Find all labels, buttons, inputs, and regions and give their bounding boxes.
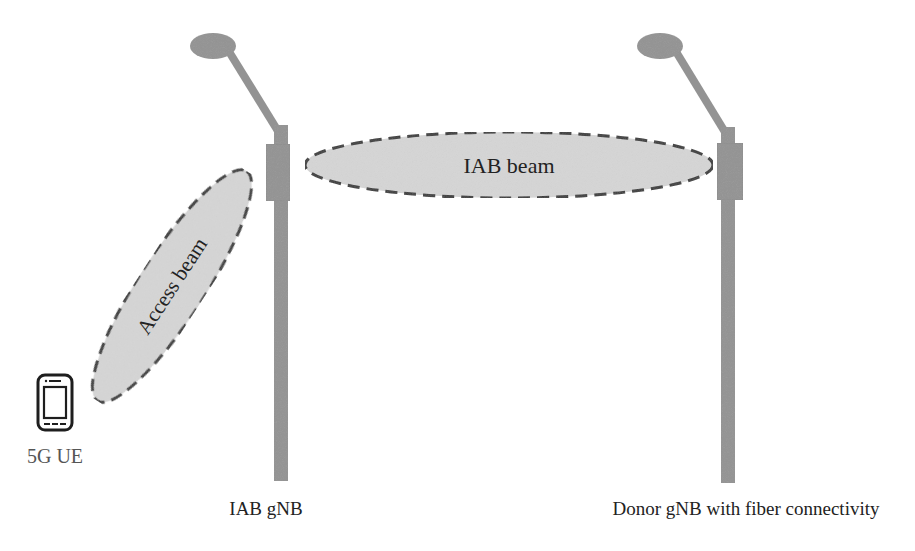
lamp-arm	[228, 50, 281, 136]
smartphone-icon	[38, 375, 72, 430]
ue-label: 5G UE	[27, 445, 83, 467]
iab-network-diagram: IAB beam Access beam 5G UE IAB gNB Donor…	[0, 0, 915, 551]
lamp-arm	[675, 50, 728, 137]
lamp-head	[637, 33, 683, 59]
gnb-unit-box	[266, 144, 290, 201]
iab-gnb-label: IAB gNB	[229, 498, 302, 519]
gnb-unit-box	[717, 143, 743, 200]
access-beam: Access beam	[70, 153, 275, 419]
donor-gnb-pole	[637, 33, 743, 483]
lamp-head	[190, 33, 236, 59]
iab-beam: IAB beam	[305, 132, 713, 198]
iab-beam-label: IAB beam	[463, 153, 554, 178]
donor-gnb-label: Donor gNB with fiber connectivity	[612, 498, 880, 519]
